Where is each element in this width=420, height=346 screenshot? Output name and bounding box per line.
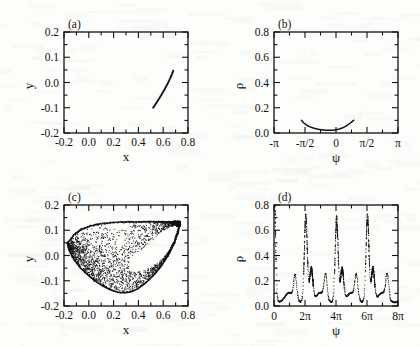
ytick-label: 0.1 bbox=[45, 224, 60, 236]
xtick-label: π bbox=[395, 137, 401, 149]
panel-a-xtick-labels: -0.2 0.0 0.2 0.4 0.6 0.8 bbox=[55, 136, 196, 148]
ytick-label: 0.8 bbox=[255, 26, 270, 38]
panel-b-plot: 0.8 0.6 0.4 0.2 0.0 -π -π/2 0 π/2 π ψ ρ … bbox=[210, 0, 420, 173]
panel-c-data bbox=[67, 220, 182, 293]
xtick-label: 0.8 bbox=[181, 309, 196, 321]
figure-container: 0.2 0.1 0.0 -0.1 -0.2 -0.2 0.0 0.2 0.4 0… bbox=[0, 0, 420, 346]
xtick-label: 0.6 bbox=[156, 309, 171, 321]
panel-d-tag: (d) bbox=[278, 191, 292, 204]
panel-a-frame bbox=[64, 32, 188, 133]
xtick-label: 0.0 bbox=[82, 136, 97, 148]
panel-c-ticks bbox=[64, 205, 188, 306]
ytick-label: 0.6 bbox=[255, 51, 270, 63]
xtick-label: 0.0 bbox=[82, 309, 97, 321]
ytick-label: 0.2 bbox=[45, 199, 60, 211]
panel-a-ticks bbox=[64, 32, 188, 133]
panel-c-ylabel: y bbox=[21, 255, 36, 262]
xtick-label: 2π bbox=[299, 310, 311, 322]
panel-b-xlabel: ψ bbox=[332, 150, 340, 165]
panel-c: 0.2 0.1 0.0 -0.1 -0.2 -0.2 0.0 0.2 0.4 0… bbox=[0, 173, 210, 346]
xtick-label: 0.4 bbox=[131, 309, 146, 321]
panel-d-xlabel: ψ bbox=[332, 323, 340, 338]
panel-a-ytick-labels: 0.2 0.1 0.0 -0.1 -0.2 bbox=[41, 26, 59, 139]
xtick-label: 8π bbox=[392, 310, 404, 322]
panel-d-plot: 0.8 0.6 0.4 0.2 0.0 0 2π 4π 6π 8π ψ ρ (d… bbox=[210, 173, 420, 346]
xtick-label: 0 bbox=[333, 137, 339, 149]
panel-d-ylabel: ρ bbox=[231, 256, 246, 263]
panel-d: 0.8 0.6 0.4 0.2 0.0 0 2π 4π 6π 8π ψ ρ (d… bbox=[210, 173, 420, 346]
panel-b-ylabel: ρ bbox=[231, 83, 246, 90]
panel-b: 0.8 0.6 0.4 0.2 0.0 -π -π/2 0 π/2 π ψ ρ … bbox=[210, 0, 420, 173]
panel-c-xlabel: x bbox=[123, 322, 130, 337]
ytick-label: 0.8 bbox=[255, 199, 270, 211]
xtick-label: 0 bbox=[271, 310, 277, 322]
ytick-label: 0.2 bbox=[255, 275, 270, 287]
xtick-label: π/2 bbox=[360, 137, 375, 149]
panel-c-plot: 0.2 0.1 0.0 -0.1 -0.2 -0.2 0.0 0.2 0.4 0… bbox=[0, 173, 210, 346]
panel-b-ticks bbox=[274, 32, 398, 133]
ytick-label: 0.0 bbox=[255, 127, 270, 139]
panel-a-xlabel: x bbox=[123, 149, 130, 164]
ytick-label: -0.1 bbox=[41, 275, 59, 287]
panel-c-tag: (c) bbox=[68, 191, 81, 204]
panel-a-tag: (a) bbox=[68, 18, 81, 31]
xtick-label: -0.2 bbox=[55, 309, 73, 321]
xtick-label: -0.2 bbox=[55, 136, 73, 148]
ytick-label: 0.0 bbox=[45, 250, 60, 262]
panel-c-xtick-labels: -0.2 0.0 0.2 0.4 0.6 0.8 bbox=[55, 309, 196, 321]
ytick-label: 0.6 bbox=[255, 224, 270, 236]
panel-a-ylabel: y bbox=[21, 82, 36, 89]
xtick-label: 6π bbox=[361, 310, 373, 322]
panel-c-ytick-labels: 0.2 0.1 0.0 -0.1 -0.2 bbox=[41, 199, 59, 312]
ytick-label: 0.1 bbox=[45, 51, 60, 63]
xtick-label: 0.8 bbox=[181, 136, 196, 148]
panel-b-data bbox=[301, 120, 353, 130]
xtick-label: 4π bbox=[330, 310, 342, 322]
panel-a: 0.2 0.1 0.0 -0.1 -0.2 -0.2 0.0 0.2 0.4 0… bbox=[0, 0, 210, 173]
panel-b-tag: (b) bbox=[278, 18, 292, 31]
panel-b-frame bbox=[274, 32, 398, 133]
xtick-label: 0.6 bbox=[156, 136, 171, 148]
xtick-label: 0.2 bbox=[106, 309, 121, 321]
panel-b-xtick-labels: -π -π/2 0 π/2 π bbox=[269, 137, 401, 149]
ytick-label: 0.2 bbox=[255, 102, 270, 114]
ytick-label: 0.0 bbox=[255, 300, 270, 312]
ytick-label: 0.2 bbox=[45, 26, 60, 38]
ytick-label: 0.4 bbox=[255, 250, 270, 262]
xtick-label: -π/2 bbox=[296, 137, 315, 149]
panel-c-frame bbox=[64, 205, 188, 306]
panel-a-plot: 0.2 0.1 0.0 -0.1 -0.2 -0.2 0.0 0.2 0.4 0… bbox=[0, 0, 210, 173]
panel-b-ytick-labels: 0.8 0.6 0.4 0.2 0.0 bbox=[255, 26, 270, 139]
ytick-label: 0.0 bbox=[45, 77, 60, 89]
panel-a-data bbox=[153, 71, 173, 108]
panel-d-data bbox=[274, 205, 398, 303]
xtick-label: 0.2 bbox=[106, 136, 121, 148]
xtick-label: 0.4 bbox=[131, 136, 146, 148]
xtick-label: -π bbox=[269, 137, 279, 149]
ytick-label: -0.1 bbox=[41, 102, 59, 114]
panel-d-ytick-labels: 0.8 0.6 0.4 0.2 0.0 bbox=[255, 199, 270, 312]
panel-d-xtick-labels: 0 2π 4π 6π 8π bbox=[271, 310, 404, 322]
ytick-label: 0.4 bbox=[255, 77, 270, 89]
